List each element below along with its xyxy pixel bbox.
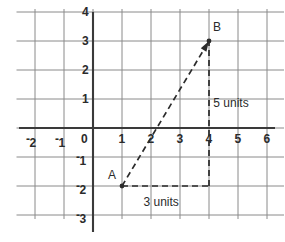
tick-value: 0 [81, 132, 87, 146]
x-tick-label--1: -1 [55, 133, 65, 149]
point-marker-b [207, 39, 212, 44]
y-tick-label-3: 3 [82, 35, 88, 47]
x-tick-label-6: 6 [264, 133, 270, 145]
y-tick-label--3: -3 [76, 209, 86, 225]
point-label-b: B [213, 21, 221, 33]
x-tick-label-3: 3 [177, 133, 183, 145]
tick-value: 3 [177, 132, 183, 146]
coordinate-grid-canvas [0, 0, 284, 242]
tick-value: 2 [30, 136, 36, 150]
tick-value: 4 [82, 5, 88, 19]
tick-value: 3 [80, 212, 86, 226]
tick-value: 2 [148, 132, 154, 146]
measure-label-horizontal: 3 units [144, 196, 179, 208]
x-tick-label-4: 4 [206, 133, 212, 145]
tick-value: 3 [82, 34, 88, 48]
tick-value: 4 [206, 132, 212, 146]
point-marker-a [120, 184, 125, 189]
y-tick-label--1: -1 [76, 151, 86, 167]
measure-label-vertical: 5 units [213, 97, 248, 109]
y-tick-label--2: -2 [76, 180, 86, 196]
tick-value: 2 [82, 63, 88, 77]
dashed-segments [122, 41, 209, 186]
y-tick-label-1: 1 [82, 93, 88, 105]
x-tick-label--2: -2 [26, 133, 36, 149]
x-tick-label-1: 1 [119, 133, 125, 145]
coordinate-plane-figure: -2-11234564321-1-2-30 AB5 units3 units [0, 0, 284, 242]
tick-value: 1 [80, 154, 86, 168]
tick-value: 2 [80, 183, 86, 197]
x-tick-label-5: 5 [235, 133, 241, 145]
x-tick-label-2: 2 [148, 133, 154, 145]
point-label-a: A [108, 169, 116, 181]
y-tick-label-4: 4 [82, 6, 88, 18]
tick-value: 1 [59, 136, 65, 150]
tick-value: 6 [264, 132, 270, 146]
tick-value: 5 [235, 132, 241, 146]
tick-value: 1 [82, 92, 88, 106]
horizontal-grid-lines [17, 12, 285, 215]
segment-hypotenuse [122, 45, 206, 186]
tick-value: 1 [119, 132, 125, 146]
origin-tick-label-0: 0 [81, 133, 87, 145]
y-tick-label-2: 2 [82, 64, 88, 76]
